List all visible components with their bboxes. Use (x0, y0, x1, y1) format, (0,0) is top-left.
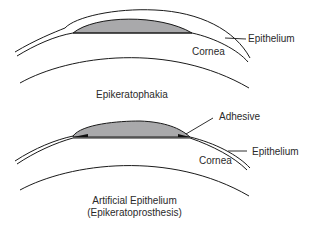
diagram-canvas: Epithelium Cornea Epikeratophakia Adhesi… (0, 0, 313, 227)
epithelium-pointer-top (225, 38, 246, 39)
label-epithelium-bottom: Epithelium (252, 146, 299, 157)
bottom-cornea-posterior-line (20, 166, 249, 196)
cornea-posterior-line (20, 58, 249, 88)
title-epikeratoprosthesis: (Epikeratoprosthesis) (78, 207, 191, 218)
prosthesis-shape (73, 121, 190, 137)
title-epikeratophakia: Epikeratophakia (96, 89, 168, 100)
adhesive-pointer (186, 118, 213, 134)
title-artificial-epithelium: Artificial Epithelium (82, 195, 187, 206)
label-cornea-top: Cornea (192, 46, 225, 57)
lenticule-shape (73, 19, 192, 33)
label-adhesive: Adhesive (219, 111, 260, 122)
label-cornea-bottom: Cornea (199, 155, 232, 166)
label-epithelium-top: Epithelium (248, 33, 295, 44)
